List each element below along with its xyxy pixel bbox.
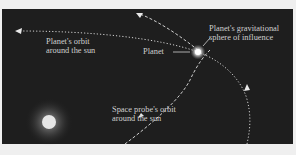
probe-orbit-arrow-icon-top	[136, 13, 143, 18]
planet-orbit-arrow-icon	[15, 28, 22, 34]
sun-icon	[25, 98, 73, 146]
planet-orbit-arrow-icon-2	[244, 84, 250, 91]
probe-orbit-label: Space probe's orbit around the sun	[112, 105, 176, 123]
probe-orbit-path	[125, 14, 210, 144]
planet-label: Planet	[143, 47, 164, 56]
sphere-of-influence-label: Planet's gravitational sphere of influen…	[209, 24, 279, 42]
planet-icon	[191, 45, 206, 60]
planet-orbit-label: Planet's orbit around the sun	[46, 37, 95, 55]
